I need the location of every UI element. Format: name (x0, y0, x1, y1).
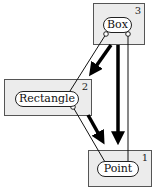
point-node: Point (97, 161, 139, 177)
arrow-box-rectangle (92, 45, 111, 72)
rectangle-node: Rectangle (15, 91, 79, 107)
box-node: Box (103, 17, 132, 33)
